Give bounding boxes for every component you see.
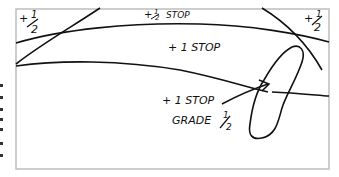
top-band-word: STOP xyxy=(166,10,190,20)
middle-band-label: + 1 STOP xyxy=(168,41,221,54)
top-left-num: 1 xyxy=(31,9,37,20)
grade-word: GRADE xyxy=(172,114,211,127)
top-right-den: 2 xyxy=(314,21,321,34)
arrow-line xyxy=(222,84,268,104)
top-left-plus: + xyxy=(19,12,28,25)
middle-band-line xyxy=(16,62,268,92)
top-left-corner-line xyxy=(16,8,100,64)
arrow-label: + 1 STOP xyxy=(162,94,215,107)
middle-band-line-right xyxy=(272,92,329,96)
dodge-burn-print-map: + 1 2 + 1 2 STOP + 1 2 + 1 STOP + 1 STOP… xyxy=(0,0,339,177)
grade-den: 2 xyxy=(226,122,232,132)
top-band-den: 2 xyxy=(155,14,160,22)
top-left-den: 2 xyxy=(31,23,38,36)
top-right-plus: + xyxy=(304,12,313,25)
